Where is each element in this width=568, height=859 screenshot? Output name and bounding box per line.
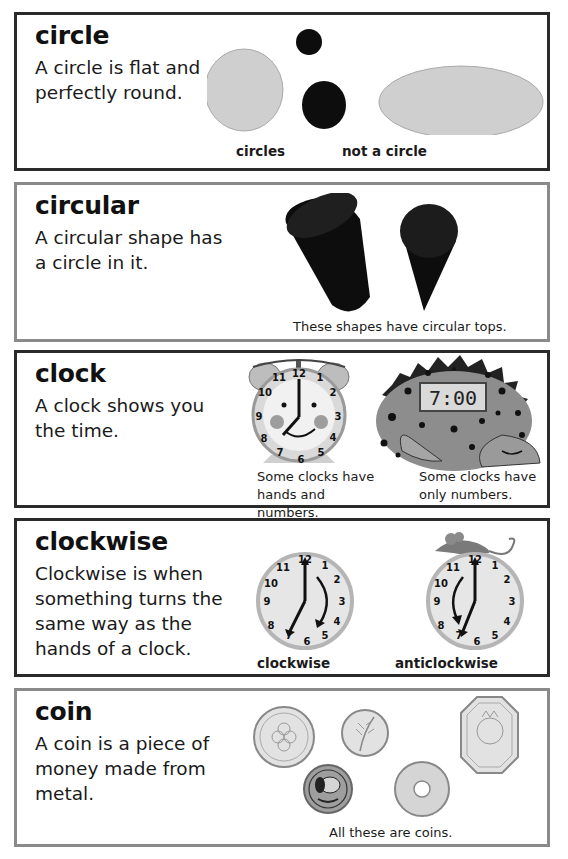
- coins-illustration: [232, 695, 532, 825]
- caption-clockwise: clockwise: [257, 655, 330, 671]
- entry-coin: coin A coin is a piece of money made fro…: [14, 688, 550, 847]
- svg-text:4: 4: [504, 616, 511, 627]
- svg-text:11: 11: [272, 372, 286, 383]
- svg-text:1: 1: [322, 560, 329, 571]
- svg-text:9: 9: [256, 411, 263, 422]
- entry-word: clockwise: [35, 527, 168, 556]
- entry-definition: A clock shows you the time.: [35, 393, 235, 443]
- svg-text:10: 10: [434, 578, 448, 589]
- svg-text:6: 6: [304, 636, 311, 647]
- medium-black-circle-icon: [302, 81, 346, 129]
- svg-text:11: 11: [446, 562, 460, 573]
- svg-text:8: 8: [438, 620, 445, 631]
- caption-hands-and-numbers: Some clocks have hands and numbers.: [257, 468, 377, 522]
- octagonal-lion-coin-icon: [461, 697, 518, 773]
- leaf-coin-icon: [342, 710, 388, 756]
- coin-with-hole-icon: [395, 762, 449, 816]
- clockwise-clock-illustration: 1212 345 678 91011: [255, 551, 355, 651]
- alarm-clock-icon: 1212 345 678 91011: [249, 360, 349, 465]
- svg-text:11: 11: [276, 562, 290, 573]
- svg-text:10: 10: [264, 578, 278, 589]
- entry-word: coin: [35, 697, 92, 726]
- entry-clock: clock A clock shows you the time. 1212: [14, 350, 550, 508]
- svg-text:10: 10: [258, 387, 272, 398]
- circles-illustration: [207, 25, 547, 135]
- digital-time: 7:00: [429, 386, 477, 410]
- clockwise-clock-icon: 1212 345 678 91011: [258, 554, 352, 648]
- svg-text:1: 1: [492, 560, 499, 571]
- svg-text:9: 9: [264, 596, 271, 607]
- mouse-icon: [435, 532, 514, 555]
- entry-word: circular: [35, 191, 139, 220]
- svg-text:12: 12: [468, 554, 482, 565]
- entry-definition: Clockwise is when something turns the sa…: [35, 561, 245, 661]
- svg-text:2: 2: [334, 574, 341, 585]
- svg-text:8: 8: [268, 620, 275, 631]
- svg-text:3: 3: [509, 596, 516, 607]
- caption-all-coins: All these are coins.: [329, 825, 453, 841]
- entry-circular: circular A circular shape has a circle i…: [14, 182, 550, 342]
- svg-text:9: 9: [434, 596, 441, 607]
- svg-text:7: 7: [277, 447, 284, 458]
- caption-circles: circles: [236, 143, 285, 159]
- caption-not-a-circle: not a circle: [342, 143, 427, 159]
- svg-text:2: 2: [330, 387, 337, 398]
- black-cone-icon: [400, 204, 458, 311]
- svg-text:7: 7: [286, 630, 293, 641]
- svg-text:12: 12: [298, 554, 312, 565]
- flower-coin-icon: [254, 707, 314, 767]
- svg-text:7: 7: [456, 630, 463, 641]
- black-cylinder-icon: [280, 193, 370, 311]
- svg-text:5: 5: [492, 630, 499, 641]
- dinosaur-clock-illustration: 7:00: [362, 355, 552, 475]
- svg-text:4: 4: [330, 432, 337, 443]
- dinosaur-digital-clock-icon: 7:00: [376, 355, 540, 471]
- svg-text:4: 4: [334, 616, 341, 627]
- svg-text:3: 3: [339, 596, 346, 607]
- entry-definition: A circle is flat and perfectly round.: [35, 55, 235, 105]
- svg-text:8: 8: [261, 433, 268, 444]
- circular-shapes-illustration: [272, 193, 472, 318]
- svg-text:1: 1: [317, 372, 324, 383]
- caption-anticlockwise: anticlockwise: [395, 655, 498, 671]
- entry-word: clock: [35, 359, 106, 388]
- svg-text:3: 3: [335, 411, 342, 422]
- entry-word: circle: [35, 21, 109, 50]
- svg-text:5: 5: [318, 447, 325, 458]
- svg-text:2: 2: [504, 574, 511, 585]
- entry-circle: circle A circle is flat and perfectly ro…: [14, 12, 550, 171]
- dog-coin-icon: [304, 765, 352, 813]
- anticlockwise-clock-illustration: 1212 345 678 91011: [413, 523, 543, 653]
- alarm-clock-illustration: 1212 345 678 91011: [243, 359, 355, 471]
- svg-text:12: 12: [292, 368, 306, 379]
- svg-text:6: 6: [298, 454, 305, 465]
- light-gray-circle-icon: [207, 49, 283, 131]
- svg-text:5: 5: [322, 630, 329, 641]
- caption-circular-tops: These shapes have circular tops.: [293, 319, 507, 335]
- svg-text:6: 6: [474, 636, 481, 647]
- entry-definition: A circular shape has a circle in it.: [35, 225, 235, 275]
- small-black-circle-icon: [296, 29, 322, 55]
- anticlockwise-clock-icon: 1212 345 678 91011: [428, 554, 522, 648]
- entry-definition: A coin is a piece of money made from met…: [35, 731, 235, 806]
- entry-clockwise: clockwise Clockwise is when something tu…: [14, 518, 550, 677]
- caption-only-numbers: Some clocks have only numbers.: [419, 468, 549, 504]
- light-gray-oval-icon: [379, 66, 543, 135]
